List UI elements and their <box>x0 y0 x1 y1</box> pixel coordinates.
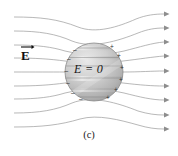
negative-charge-marker: – <box>66 79 70 86</box>
negative-charge-marker: – <box>65 67 69 74</box>
field-line-1 <box>14 14 164 30</box>
positive-charge-marker: + <box>106 94 110 101</box>
arrow-head-icon-4 <box>164 54 170 59</box>
negative-charge-marker: – <box>79 95 83 102</box>
figure-caption: (c) <box>0 129 178 140</box>
positive-charge-marker: + <box>110 43 114 50</box>
negative-charge-marker: – <box>67 55 71 62</box>
arrow-head-icon-3 <box>164 40 170 45</box>
arrow-head-icon-8 <box>164 113 170 118</box>
negative-charge-marker: – <box>73 46 77 53</box>
negative-charge-marker: – <box>71 89 75 96</box>
positive-charge-marker: + <box>114 86 118 93</box>
arrow-head-icon-5 <box>164 69 170 74</box>
arrow-head-icon-1 <box>164 12 170 17</box>
field-line-8 <box>14 100 164 115</box>
field-line-2 <box>14 28 164 44</box>
positive-charge-marker: + <box>120 64 124 71</box>
field-line-9 <box>14 117 164 129</box>
field-line-arrowheads <box>164 12 170 132</box>
interior-field-label: E = 0 <box>74 62 103 77</box>
external-field-label-text: E <box>21 49 30 62</box>
electric-field-sphere-figure: – – – – – – + + + + + + E = 0 E (c) <box>0 0 178 156</box>
positive-charge-marker: + <box>119 76 123 83</box>
arrow-head-icon-7 <box>164 98 170 103</box>
arrow-head-icon-6 <box>164 84 170 89</box>
arrow-head-icon-2 <box>164 26 170 31</box>
external-field-vector-label: E <box>21 44 43 66</box>
positive-charge-marker: + <box>117 52 121 59</box>
